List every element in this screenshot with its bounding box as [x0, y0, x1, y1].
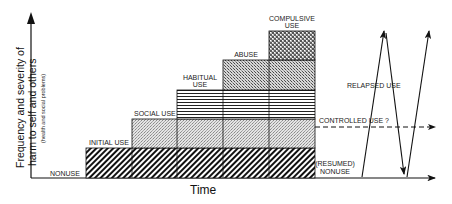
stage-label-nonuse: NONUSE [50, 170, 80, 177]
stage-label-abuse: ABUSE [234, 51, 258, 58]
y-axis-sublabel: (health and social problems) [40, 74, 46, 143]
outcome-arrows [315, 31, 435, 178]
y-axis: Frequency and severity of harm to self a… [14, 12, 46, 178]
y-axis-arrow-icon [27, 12, 35, 24]
stage-label-social-use: SOCIAL USE [134, 110, 176, 117]
x-axis-label: Time [190, 183, 217, 197]
stage-blocks [86, 31, 315, 178]
stage-label-compulsive: COMPULSIVE [269, 15, 315, 22]
y-axis-label-line1: Frequency and severity of [14, 47, 26, 168]
outcome-label-relapsed-use: RELAPSED USE [347, 82, 401, 89]
stage-label-initial-use: INITIAL USE [89, 139, 129, 146]
outcome-label-resumed: (RESUMED) [315, 160, 355, 168]
drug-use-progression-diagram: Frequency and severity of harm to self a… [0, 0, 452, 204]
stage-label-habitual-line2: USE [193, 81, 208, 88]
outcome-label-controlled-use: CONTROLLED USE ? [319, 117, 389, 124]
outcome-label-resumed-line2: NONUSE [320, 168, 350, 175]
stage-label-compulsive-line2: USE [285, 22, 300, 29]
stage-label-habitual: HABITUAL [183, 74, 217, 81]
y-axis-label-line2: harm to self and others [26, 59, 38, 166]
